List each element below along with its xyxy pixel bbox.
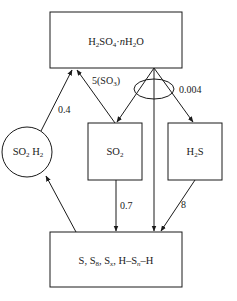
node-h2so4-label: H2SO4·nH2O (88, 37, 143, 48)
edge-label-0-4: 0.4 (58, 105, 71, 115)
node-so2-label: SO2 (107, 147, 124, 158)
node-sulfur-label: S, S8, Sx, H–Sn–H (79, 256, 154, 267)
edge-so2h2-to-h2so4 (41, 70, 72, 131)
edge-h2so4-to-so2 (117, 68, 154, 122)
edge-label-0-7: 0.7 (120, 201, 133, 211)
node-h2s-label: H2S (187, 147, 204, 158)
edge-h2s-to-sulfur (161, 180, 195, 231)
edge-label-0-004: 0.004 (179, 85, 202, 95)
node-so2h2-label: SO2 H2 (13, 147, 44, 158)
edge-h2so4-to-h2s (154, 68, 193, 122)
edge-sulfur-to-so2h2 (46, 176, 76, 232)
edge-label-8: 8 (181, 200, 186, 210)
edge-label-5-so3: 5(SO3) (92, 76, 120, 86)
